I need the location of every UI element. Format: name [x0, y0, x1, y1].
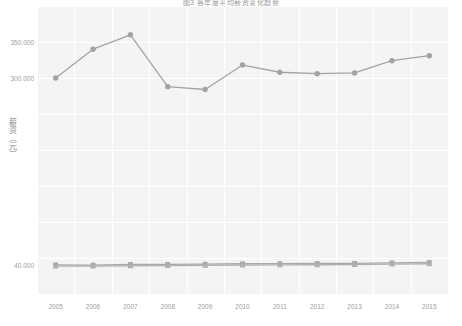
y-axis-tick-label: 40.000 [14, 262, 34, 269]
y-axis-tick-label: 300.000 [11, 75, 35, 82]
data-point-marker [128, 32, 133, 37]
data-point-marker [53, 75, 58, 80]
series-circle [53, 32, 432, 92]
series-layer [37, 6, 448, 294]
x-axis-tick-label: 2010 [235, 303, 249, 310]
x-axis-tick-label: 2006 [86, 303, 100, 310]
x-axis-tick-label: 2012 [310, 303, 324, 310]
y-axis-tick-label: 350.000 [11, 39, 35, 46]
y-axis-tick-labels: 350.000300.00040.000 [0, 0, 34, 326]
data-point-marker [90, 47, 95, 52]
data-point-marker [389, 58, 394, 63]
plot-area [37, 6, 448, 294]
x-axis-tick-label: 2013 [347, 303, 361, 310]
data-point-marker [202, 87, 207, 92]
data-point-marker [165, 84, 170, 89]
x-axis-tick-label: 2014 [385, 303, 399, 310]
data-point-marker [277, 70, 282, 75]
x-axis-tick-label: 2007 [123, 303, 137, 310]
x-axis-tick-label: 2011 [273, 303, 287, 310]
data-point-marker [352, 70, 357, 75]
x-axis-tick-label: 2008 [161, 303, 175, 310]
x-axis-tick-label: 2015 [422, 303, 436, 310]
data-point-marker [427, 53, 432, 58]
data-point-marker [315, 71, 320, 76]
data-point-marker [240, 62, 245, 67]
series-line [56, 35, 430, 90]
line-chart: 图3 各年度平均薪资变化趋势 薪资（元） 350.000300.00040.00… [0, 0, 462, 326]
x-axis-tick-label: 2005 [48, 303, 62, 310]
x-axis-tick-label: 2009 [198, 303, 212, 310]
